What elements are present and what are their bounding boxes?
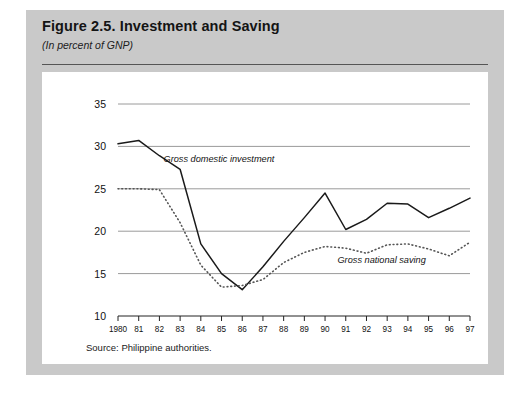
x-tick-label: 92 xyxy=(362,325,372,334)
x-tick-label: 1980 xyxy=(109,325,128,334)
x-tick-label: 83 xyxy=(176,325,186,334)
x-tick-labels: 19808182838485868788899091929394959697 xyxy=(109,325,475,334)
y-tick-label: 30 xyxy=(94,140,106,152)
x-tick-label: 96 xyxy=(445,325,455,334)
x-tick-label: 97 xyxy=(465,325,475,334)
x-tick-label: 82 xyxy=(155,325,165,334)
x-tick-label: 91 xyxy=(341,325,351,334)
x-tick-label: 95 xyxy=(424,325,434,334)
x-tick-label: 93 xyxy=(383,325,393,334)
x-axis xyxy=(118,316,470,321)
y-tick-label: 25 xyxy=(94,183,106,195)
y-tick-label: 35 xyxy=(94,98,106,110)
y-tick-label: 15 xyxy=(94,268,106,280)
figure-subtitle: (In percent of GNP) xyxy=(42,39,133,51)
x-tick-label: 81 xyxy=(134,325,144,334)
y-tick-label: 10 xyxy=(94,310,106,322)
x-tick-label: 89 xyxy=(300,325,310,334)
x-tick-label: 88 xyxy=(279,325,289,334)
x-tick-label: 90 xyxy=(321,325,331,334)
x-tick-label: 94 xyxy=(403,325,413,334)
series-annotations: Gross domestic investmentGross national … xyxy=(164,154,427,266)
title-divider xyxy=(42,64,488,65)
page-title: Figure 2.5. Investment and Saving xyxy=(42,18,280,34)
series-label-gross-national-saving: Gross national saving xyxy=(337,255,426,265)
figure-panel: Figure 2.5. Investment and Saving (In pe… xyxy=(26,10,504,375)
y-tick-labels: 101520253035 xyxy=(94,98,106,322)
series-label-gross-domestic-investment: Gross domestic investment xyxy=(164,154,275,164)
figure-header: Figure 2.5. Investment and Saving (In pe… xyxy=(26,10,504,72)
series-line-gross-national-saving xyxy=(118,189,470,287)
figure-root: Figure 2.5. Investment and Saving (In pe… xyxy=(0,0,531,394)
x-tick-label: 85 xyxy=(217,325,227,334)
x-tick-label: 86 xyxy=(238,325,248,334)
line-chart: 101520253035 198081828384858687888990919… xyxy=(42,72,488,364)
chart-card: 101520253035 198081828384858687888990919… xyxy=(42,72,488,364)
x-tick-label: 87 xyxy=(258,325,268,334)
y-tick-label: 20 xyxy=(94,225,106,237)
source-note: Source: Philippine authorities. xyxy=(86,342,212,353)
x-tick-label: 84 xyxy=(196,325,206,334)
gridlines xyxy=(118,104,470,274)
